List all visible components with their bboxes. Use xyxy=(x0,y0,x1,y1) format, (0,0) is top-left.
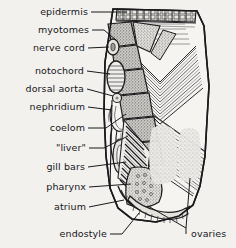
label-endostyle: endostyle xyxy=(0,229,107,239)
dorsal-aorta-body xyxy=(113,94,122,103)
label-atrium: atrium xyxy=(0,202,86,212)
label-coelom: coelom xyxy=(0,123,85,133)
label-gill-bars: gill bars xyxy=(0,162,85,172)
label-nerve-cord: nerve cord xyxy=(0,43,85,53)
label-ovaries: ovaries xyxy=(191,229,226,239)
label-dorsal-aorta: dorsal aorta xyxy=(0,84,84,94)
label-pharynx: pharynx xyxy=(0,182,86,192)
label-notochord: notochord xyxy=(0,66,84,76)
leader-nerve-cord xyxy=(88,47,109,48)
notochord-body xyxy=(107,61,125,93)
label-liver: "liver" xyxy=(0,143,86,153)
label-nephridium: nephridium xyxy=(0,102,85,112)
label-epidermis: epidermis xyxy=(0,7,88,17)
label-myotomes: myotomes xyxy=(0,25,89,35)
ovary-patch xyxy=(149,125,201,184)
